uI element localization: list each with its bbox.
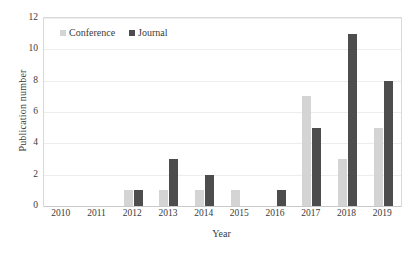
x-tick-label: 2011: [79, 208, 115, 218]
bar-group: [294, 18, 330, 206]
bar-group: [223, 18, 259, 206]
legend-swatch-icon: [60, 30, 66, 36]
bar-group: [80, 18, 116, 206]
bar-conference-2017: [302, 96, 311, 206]
bar-journal-2016: [277, 190, 286, 206]
bar-conference-2018: [338, 159, 347, 206]
legend-item-conference: Conference: [60, 27, 115, 38]
bar-journal-2019: [384, 81, 393, 206]
x-tick-label: 2019: [364, 208, 400, 218]
bar-conference-2013: [159, 190, 168, 206]
legend-swatch-icon: [129, 30, 135, 36]
y-tick-label: 10: [16, 43, 38, 53]
bar-journal-2017: [312, 128, 321, 206]
bar-group: [258, 18, 294, 206]
x-tick-label: 2018: [329, 208, 365, 218]
legend-item-journal: Journal: [129, 27, 167, 38]
bar-groups: [44, 18, 401, 206]
x-tick-label: 2017: [293, 208, 329, 218]
bar-group: [115, 18, 151, 206]
bar-group: [44, 18, 80, 206]
x-tick-label: 2014: [186, 208, 222, 218]
x-axis-title: Year: [43, 228, 400, 239]
bar-conference-2019: [374, 128, 383, 206]
x-tick-label: 2013: [150, 208, 186, 218]
x-tick-label: 2015: [222, 208, 258, 218]
bar-conference-2015: [231, 190, 240, 206]
publication-number-bar-chart: Publication number 024681012 20102011201…: [0, 0, 406, 257]
bar-journal-2018: [348, 34, 357, 206]
x-axis-tick-labels: 2010201120122013201420152016201720182019: [43, 208, 400, 218]
bar-conference-2014: [195, 190, 204, 206]
y-axis-tick-labels: 024681012: [16, 0, 38, 257]
bar-group: [365, 18, 401, 206]
y-tick-label: 4: [16, 137, 38, 147]
x-tick-label: 2012: [114, 208, 150, 218]
chart-legend: ConferenceJournal: [60, 27, 168, 38]
bar-conference-2012: [124, 190, 133, 206]
legend-label: Journal: [138, 27, 167, 38]
bar-journal-2013: [169, 159, 178, 206]
bar-group: [330, 18, 366, 206]
x-tick-label: 2010: [43, 208, 79, 218]
bar-group: [151, 18, 187, 206]
y-tick-label: 6: [16, 106, 38, 116]
plot-area: [43, 17, 402, 207]
y-tick-label: 12: [16, 12, 38, 22]
y-tick-label: 8: [16, 75, 38, 85]
x-tick-label: 2016: [257, 208, 293, 218]
y-tick-label: 0: [16, 200, 38, 210]
y-tick-label: 2: [16, 169, 38, 179]
bar-group: [187, 18, 223, 206]
legend-label: Conference: [69, 27, 115, 38]
bar-journal-2012: [134, 190, 143, 206]
bar-journal-2014: [205, 175, 214, 206]
x-axis-baseline: [44, 206, 401, 207]
